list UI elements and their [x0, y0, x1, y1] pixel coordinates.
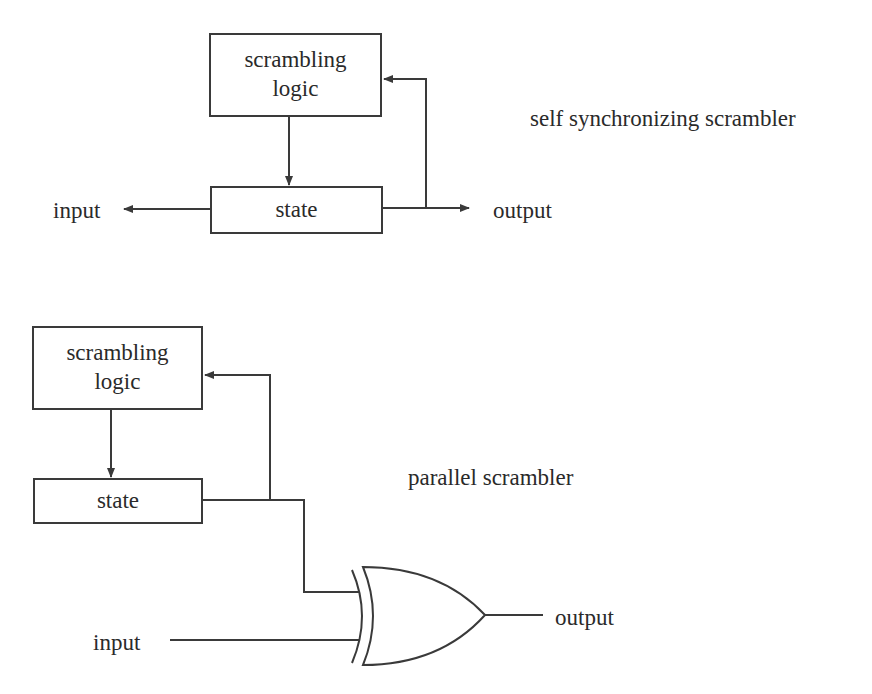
diagram-title-bottom: parallel scrambler [408, 466, 573, 489]
scrambling-logic-box: scramblinglogic [209, 33, 382, 117]
xor-back-curve [352, 570, 362, 663]
feedback-arrow-2 [205, 375, 270, 500]
output-label: output [493, 199, 552, 222]
feedback-arrow [384, 79, 426, 208]
state-to-xor-wire [202, 500, 360, 592]
scrambling-logic-box-2: scramblinglogic [32, 326, 203, 410]
state-box: state [210, 186, 383, 234]
input-label: input [53, 199, 100, 222]
output-label-2: output [555, 606, 614, 629]
xor-gate-icon [363, 567, 485, 665]
input-label-2: input [93, 631, 140, 654]
logic-label-2: logic [94, 369, 140, 394]
logic-label-1: scrambling [66, 340, 168, 365]
logic-label-1: scrambling [244, 47, 346, 72]
logic-label-2: logic [272, 76, 318, 101]
diagram-title-top: self synchronizing scrambler [530, 107, 796, 130]
state-box-2: state [33, 478, 203, 524]
